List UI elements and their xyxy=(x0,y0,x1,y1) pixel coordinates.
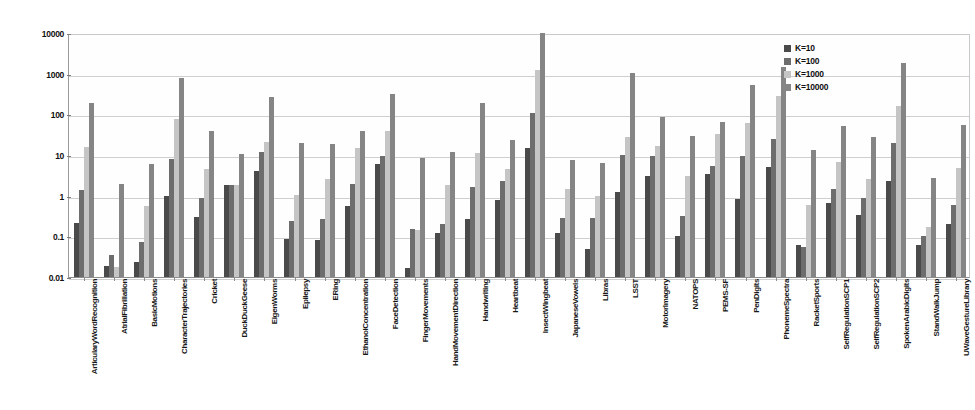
bar xyxy=(450,152,455,277)
x-axis-tick-label-wrapper: Heartbeat xyxy=(508,279,517,313)
bar xyxy=(269,97,274,277)
bar xyxy=(420,158,425,277)
bar xyxy=(299,143,304,277)
x-axis-tick-label-wrapper: EthanolConcentration xyxy=(358,279,367,356)
y-axis-tick-mark xyxy=(67,278,71,279)
bar xyxy=(330,144,335,277)
x-axis-tick-label-wrapper: Handwriting xyxy=(478,279,487,321)
bar xyxy=(931,178,936,277)
bar xyxy=(660,117,665,277)
bar-group xyxy=(340,35,370,277)
bar-group xyxy=(99,35,129,277)
bar-group xyxy=(400,35,430,277)
bar xyxy=(540,33,545,277)
bar xyxy=(510,140,515,277)
x-axis-tick-label-wrapper: EigenWorms xyxy=(267,279,276,324)
x-axis-tick-label: NATOPS xyxy=(691,279,700,310)
legend-swatch-icon xyxy=(784,71,791,78)
x-axis-tick-label: SelfRegulationSCP1 xyxy=(842,279,851,350)
y-axis-tick-label: 10 xyxy=(0,151,64,161)
x-axis-tick-label-wrapper: PhonemeSpectra xyxy=(779,279,788,339)
bar-group xyxy=(370,35,400,277)
y-axis-tick-labels: 1000010001001010.10.01 xyxy=(0,34,64,278)
legend-label: K=1000 xyxy=(795,69,824,79)
bar xyxy=(390,94,395,277)
bar xyxy=(630,73,635,277)
bar xyxy=(179,78,184,277)
x-axis-tick-label: HandMovementDirection xyxy=(451,279,460,366)
bar-group xyxy=(911,35,941,277)
y-axis-tick-label: 10000 xyxy=(0,29,64,39)
legend-item: K=100 xyxy=(784,55,828,67)
legend-item: K=10 xyxy=(784,42,828,54)
legend-label: K=100 xyxy=(795,56,819,66)
legend-label: K=10 xyxy=(795,43,815,53)
bar xyxy=(720,122,725,277)
x-axis-tick-label-wrapper: SelfRegulationSCP2 xyxy=(869,279,878,350)
x-axis-tick-labels: ArticularyWordRecognitionAtrialFibrillat… xyxy=(68,279,970,407)
bar xyxy=(149,164,154,277)
bar-group xyxy=(460,35,490,277)
bar xyxy=(209,131,214,277)
x-axis-tick-label: PEMS-SF xyxy=(721,279,730,312)
legend-swatch-icon xyxy=(784,84,791,91)
bar xyxy=(480,103,485,277)
x-axis-tick-label: FaceDetection xyxy=(391,279,400,329)
x-axis-tick-label-wrapper: JapaneseVowels xyxy=(568,279,577,338)
y-axis-tick-mark xyxy=(67,115,71,116)
x-axis-tick-label: Handwriting xyxy=(481,279,490,321)
bar-group xyxy=(580,35,610,277)
y-axis-tick-label: 0.1 xyxy=(0,232,64,242)
x-axis-tick-label: Heartbeat xyxy=(511,279,520,313)
bar-group xyxy=(279,35,309,277)
x-axis-tick-label-wrapper: FaceDetection xyxy=(388,279,397,329)
bar-group xyxy=(700,35,730,277)
bar-group xyxy=(219,35,249,277)
legend-item: K=1000 xyxy=(784,68,828,80)
bar xyxy=(961,125,966,277)
x-axis-tick-label: Cricket xyxy=(210,279,219,304)
x-axis-tick-label-wrapper: InsectWingbeat xyxy=(538,279,547,333)
x-axis-tick-label-wrapper: BasicMotions xyxy=(147,279,156,327)
x-axis-tick-label: InsectWingbeat xyxy=(541,279,550,333)
x-axis-tick-label-wrapper: CharacterTrajectories xyxy=(177,279,186,354)
bar xyxy=(239,154,244,277)
bar-chart-figure: 1000010001001010.10.01 ArticularyWordRec… xyxy=(0,0,975,410)
legend-swatch-icon xyxy=(784,45,791,52)
legend-label: K=10000 xyxy=(795,82,828,92)
x-axis-tick-label: StandWalkJump xyxy=(932,279,941,336)
bar-group xyxy=(550,35,580,277)
x-axis-tick-label: EthanolConcentration xyxy=(361,279,370,356)
bar-group xyxy=(610,35,640,277)
bar-group xyxy=(310,35,340,277)
x-axis-tick-label: BasicMotions xyxy=(150,279,159,327)
x-axis-tick-label: ArticularyWordRecognition xyxy=(90,279,99,374)
x-axis-tick-label: CharacterTrajectories xyxy=(180,279,189,354)
bar-group xyxy=(670,35,700,277)
x-axis-tick-label-wrapper: SpokenArabicDigits xyxy=(899,279,908,349)
x-axis-tick-label-wrapper: MotorImagery xyxy=(658,279,667,328)
bar-group xyxy=(640,35,670,277)
x-axis-tick-label: LSST xyxy=(631,279,640,298)
x-axis-tick-label: RacketSports xyxy=(812,279,821,326)
x-axis-tick-label-wrapper: StandWalkJump xyxy=(929,279,938,336)
legend-item: K=10000 xyxy=(784,81,828,93)
x-axis-tick-label: AtrialFibrillation xyxy=(120,279,129,334)
bar-group xyxy=(159,35,189,277)
x-axis-tick-label: DuckDuckGeese xyxy=(240,279,249,338)
x-axis-tick-label-wrapper: NATOPS xyxy=(688,279,697,310)
chart-legend: K=10K=100K=1000K=10000 xyxy=(780,40,832,96)
bar xyxy=(781,67,786,277)
x-axis-tick-label: UWaveGestureLibrary xyxy=(962,279,971,356)
y-axis-tick-label: 1 xyxy=(0,192,64,202)
bar xyxy=(119,184,124,277)
x-axis-tick-label-wrapper: UWaveGestureLibrary xyxy=(959,279,968,356)
x-axis-tick-label: Epilepsy xyxy=(301,279,310,309)
x-axis-tick-label: FingerMovements xyxy=(421,279,430,342)
bar xyxy=(871,137,876,277)
y-axis-tick-label: 100 xyxy=(0,110,64,120)
x-axis-tick-label-wrapper: Cricket xyxy=(207,279,216,304)
x-axis-tick-label: JapaneseVowels xyxy=(571,279,580,338)
legend-swatch-icon xyxy=(784,58,791,65)
y-axis-tick-mark xyxy=(67,156,71,157)
